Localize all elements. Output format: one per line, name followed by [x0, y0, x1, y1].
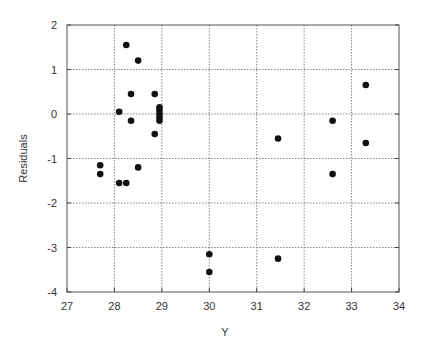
data-point [116, 180, 123, 187]
data-point [151, 91, 158, 98]
y-tick-label: 1 [51, 64, 57, 76]
data-point [329, 171, 336, 178]
x-tick-label: 34 [393, 300, 405, 312]
data-point [275, 255, 282, 262]
x-tick-label: 27 [61, 300, 73, 312]
data-point [123, 180, 130, 187]
data-point [151, 131, 158, 138]
x-tick-label: 30 [203, 300, 215, 312]
data-point [97, 171, 104, 178]
data-point [128, 91, 135, 98]
y-axis-label: Residuals [17, 134, 29, 183]
data-point [206, 269, 213, 276]
x-tick-label: 28 [108, 300, 120, 312]
y-tick-label: 2 [51, 19, 57, 31]
data-point [135, 57, 142, 64]
data-point [329, 117, 336, 124]
data-point [206, 251, 213, 258]
x-tick-label: 32 [298, 300, 310, 312]
x-tick-label: 33 [345, 300, 357, 312]
data-point [135, 164, 142, 171]
x-axis-label: Y [221, 326, 229, 338]
data-point [116, 108, 123, 115]
data-point [123, 42, 130, 49]
data-point [97, 162, 104, 169]
data-point [363, 140, 370, 147]
y-tick-label: -3 [47, 242, 57, 254]
data-point [275, 135, 282, 142]
y-tick-label: -1 [47, 153, 57, 165]
data-point [156, 117, 163, 124]
grid-lines [67, 25, 399, 292]
data-point [128, 117, 135, 124]
data-point [363, 82, 370, 89]
y-tick-label: 0 [51, 108, 57, 120]
residuals-scatter-chart: 2728293031323334-4-3-2-1012 Y Residuals [0, 0, 426, 350]
x-tick-label: 31 [251, 300, 263, 312]
y-tick-label: -4 [47, 286, 57, 298]
y-tick-label: -2 [47, 197, 57, 209]
x-tick-label: 29 [156, 300, 168, 312]
